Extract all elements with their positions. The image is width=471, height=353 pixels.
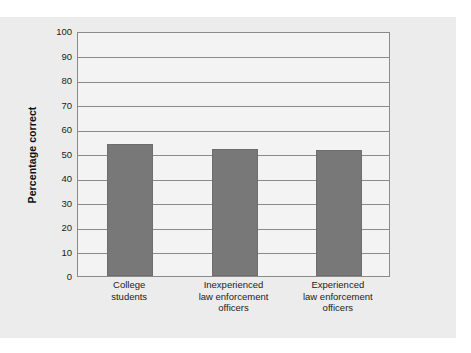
x-axis-category-label-line: students (77, 291, 181, 303)
y-axis-tick-label: 20 (46, 223, 72, 233)
y-axis-tick-label: 60 (46, 125, 72, 135)
gridline (78, 82, 389, 83)
y-axis-tick-label: 80 (46, 76, 72, 86)
x-axis-category-label-line: College (77, 279, 181, 291)
x-axis-category-label: Experiencedlaw enforcementofficers (286, 279, 390, 314)
y-axis-tick-label: 40 (46, 174, 72, 184)
x-axis-category-label-line: officers (181, 302, 285, 314)
x-axis-category-label-line: officers (286, 302, 390, 314)
figure-panel: Percentage correct 010203040506070809010… (0, 17, 456, 338)
plot-area (77, 32, 390, 277)
x-axis-category-label-line: law enforcement (286, 291, 390, 303)
x-axis-category-labels: CollegestudentsInexperiencedlaw enforcem… (77, 279, 390, 327)
y-axis-tick-label: 50 (46, 150, 72, 160)
gridline (78, 131, 389, 132)
y-axis-tick-label: 100 (46, 27, 72, 37)
gridline (78, 57, 389, 58)
y-axis-title-text: Percentage correct (26, 106, 38, 203)
bar (212, 149, 258, 276)
x-axis-category-label: Collegestudents (77, 279, 181, 302)
y-axis-title: Percentage correct (24, 32, 40, 277)
bar (107, 144, 153, 276)
y-axis-tick-label: 30 (46, 199, 72, 209)
x-axis-category-label-line: Inexperienced (181, 279, 285, 291)
x-axis-category-label-line: law enforcement (181, 291, 285, 303)
y-axis-tick-label: 70 (46, 101, 72, 111)
y-axis-tick-label: 10 (46, 248, 72, 258)
bar-chart: Percentage correct 010203040506070809010… (0, 17, 456, 338)
gridline (78, 106, 389, 107)
bar (316, 150, 362, 276)
y-axis-tick-label: 90 (46, 52, 72, 62)
y-axis-tick-labels: 0102030405060708090100 (42, 32, 72, 277)
x-axis-category-label: Inexperiencedlaw enforcementofficers (181, 279, 285, 314)
y-axis-tick-label: 0 (46, 272, 72, 282)
x-axis-category-label-line: Experienced (286, 279, 390, 291)
